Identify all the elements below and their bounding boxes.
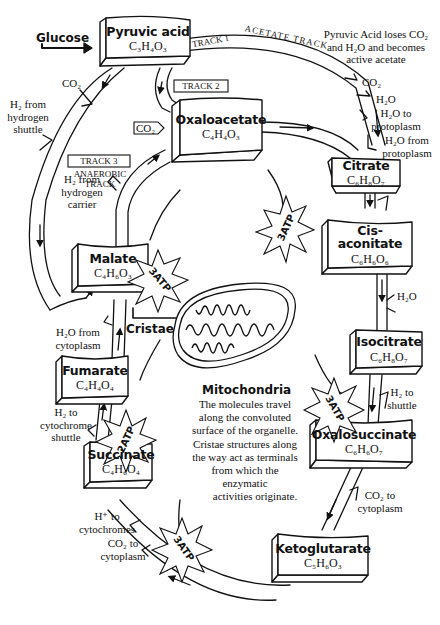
- label-line: shuttle: [380, 399, 424, 412]
- h2-from-hydrogen-shuttle-label: H₂ from hydrogen shuttle: [6, 98, 50, 136]
- desc-line: The molecules travel: [180, 398, 310, 411]
- label-line: H₂O to: [366, 107, 426, 120]
- label-line: carrier: [60, 198, 104, 211]
- co2-left-label: CO₂: [62, 77, 81, 90]
- label-line: CO₂ to: [355, 489, 405, 502]
- label-line: protoplasm: [375, 147, 439, 160]
- compound-formula: C₆H₈O₇: [370, 351, 408, 364]
- label-line: H₂O from: [375, 134, 439, 147]
- compound-name: Oxalosuccinate: [312, 428, 416, 442]
- mitochondria-title: Mitochondria: [202, 383, 291, 397]
- label-line: H₂O from: [52, 326, 104, 339]
- label-line: cytochrome: [38, 419, 94, 432]
- compound-name: Cis-aconitate: [328, 224, 412, 252]
- mitochondria-description: The molecules travel along the convolute…: [180, 398, 310, 504]
- compound-formula: C₄H₆O₄: [102, 463, 140, 476]
- compound-name: Citrate: [342, 159, 389, 173]
- desc-line: enzymatic: [180, 477, 310, 490]
- desc-line: activities originate.: [180, 490, 310, 503]
- desc-line: surface of the organelle.: [180, 424, 310, 437]
- desc-line: along the convoluted: [180, 411, 310, 424]
- co2-box-label: CO₂: [136, 122, 155, 135]
- hplus-to-cytochromes-label: H⁺ to cytochromes: [78, 510, 136, 535]
- compound-name: Fumarate: [62, 364, 128, 378]
- label-line: hydrogen: [6, 111, 50, 124]
- cristae-label: Cristae: [126, 322, 174, 336]
- compound-formula: C₄H₆O₃: [94, 267, 132, 280]
- compound-fumarate: Fumarate C₄H₄O₄: [62, 358, 128, 398]
- h2-to-shuttle-label: H₂ to shuttle: [380, 386, 424, 411]
- label-line: cytoplasm: [98, 550, 148, 563]
- label-line: H₂ to: [380, 386, 424, 399]
- compound-name: Oxaloacetate: [176, 113, 267, 127]
- note-line: Pyruvic Acid loses CO₂: [316, 28, 436, 41]
- compound-cis-aconitate: Cis-aconitate C₆H₆O₆: [328, 222, 412, 268]
- note-line: active acetate: [316, 53, 436, 66]
- label-line: H⁺ to: [78, 510, 136, 523]
- label-line: CO₂ to: [98, 537, 148, 550]
- compound-formula: C₆H₆O₆: [351, 253, 389, 266]
- label-line: cytoplasm: [52, 339, 104, 352]
- h2o-to-protoplasm-label: H₂O to protoplasm: [366, 107, 426, 132]
- h2-from-hydrogen-carrier-label: H₂ from hydrogen carrier: [60, 173, 104, 211]
- compound-formula: C₃H₄O₃: [129, 40, 167, 53]
- label-line: H₂ to: [38, 406, 94, 419]
- label-line: protoplasm: [366, 120, 426, 133]
- desc-line: Cristae structures along: [180, 438, 310, 451]
- compound-ketoglutarate: Ketoglutarate C₅H₆O₃: [278, 536, 368, 576]
- compound-malate: Malate C₄H₆O₃: [78, 246, 148, 286]
- label-line: shuttle: [38, 431, 94, 444]
- label-line: shuttle: [6, 123, 50, 136]
- h2o-top-label: H₂O: [376, 93, 396, 106]
- label-line: hydrogen: [60, 186, 104, 199]
- compound-formula: C₅H₆O₃: [304, 557, 342, 570]
- compound-pyruvic-acid: Pyruvic acid C₃H₄O₃: [106, 20, 190, 58]
- compound-name: Malate: [90, 252, 137, 266]
- compound-formula: C₄H₄O₄: [76, 379, 114, 392]
- glucose-label: Glucose: [36, 31, 89, 45]
- compound-citrate: Citrate C₆H₈O₇: [332, 159, 400, 187]
- note-line: and H₂O and becomes: [316, 41, 436, 54]
- co2-to-cytoplasm-left-label: CO₂ to cytoplasm: [98, 537, 148, 562]
- co2-top-label: CO₂: [362, 76, 381, 89]
- desc-line: from which the: [180, 464, 310, 477]
- compound-formula: C₆H₈O₇: [347, 174, 385, 187]
- diagram-artwork: [0, 0, 440, 625]
- compound-name: Isocitrate: [356, 335, 421, 349]
- compound-formula: C₄H₄O₃: [202, 128, 240, 141]
- compound-name: Pyruvic acid: [106, 25, 189, 39]
- compound-isocitrate: Isocitrate C₆H₈O₇: [356, 331, 422, 368]
- label-line: cytochromes: [78, 523, 136, 536]
- h2-to-cytochrome-shuttle-label: H₂ to cytochrome shuttle: [38, 406, 94, 444]
- compound-name: Ketoglutarate: [275, 542, 371, 556]
- desc-line: the way act as terminals: [180, 451, 310, 464]
- compound-oxalosuccinate: Oxalosuccinate C₆H₆O₇: [316, 422, 412, 462]
- pyruvic-note: Pyruvic Acid loses CO₂ and H₂O and becom…: [316, 28, 436, 66]
- label-line: H₂ from: [60, 173, 104, 186]
- track-3-label: TRACK 3: [68, 156, 130, 166]
- compound-formula: C₆H₆O₇: [345, 443, 383, 456]
- label-line: H₂ from: [6, 98, 50, 111]
- track-2-label: TRACK 2: [174, 81, 228, 91]
- h2o-cis-label: H₂O: [397, 290, 417, 303]
- co2-to-cytoplasm-right-label: CO₂ to cytoplasm: [355, 489, 405, 514]
- label-line: cytoplasm: [355, 502, 405, 515]
- h2o-from-protoplasm-label: H₂O from protoplasm: [375, 134, 439, 159]
- compound-oxaloacetate: Oxaloacetate C₄H₄O₃: [180, 102, 262, 152]
- h2o-from-cytoplasm-label: H₂O from cytoplasm: [52, 326, 104, 351]
